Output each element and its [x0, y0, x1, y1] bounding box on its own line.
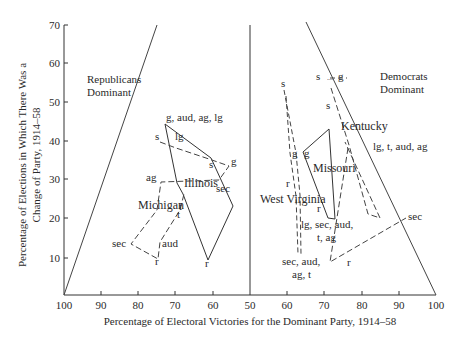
svg-text:Dominant: Dominant	[87, 86, 131, 98]
west-virginia-line-2	[286, 96, 298, 254]
svg-text:s: s	[326, 99, 330, 111]
svg-text:lg, t, aud, ag: lg, t, aud, ag	[373, 140, 428, 152]
svg-text:10: 10	[49, 252, 61, 264]
svg-text:g: g	[304, 147, 310, 159]
democrat-boundary	[306, 22, 436, 295]
svg-text:aud: aud	[162, 237, 178, 249]
svg-text:t: t	[177, 208, 180, 220]
svg-text:s: s	[209, 158, 213, 170]
svg-text:60: 60	[282, 299, 294, 311]
svg-text:40: 40	[49, 135, 61, 147]
democrats-label: Democrats	[380, 70, 428, 82]
svg-text:r: r	[155, 255, 159, 267]
region-labels: Republicans Dominant Democrats Dominant	[87, 70, 428, 98]
svg-text:s: s	[316, 70, 320, 82]
x-tick-labels: 100 90 80 70 60 50 60 70 80 90 100	[56, 299, 445, 311]
svg-text:s: s	[155, 130, 159, 142]
svg-text:50: 50	[245, 299, 257, 311]
svg-text:Missouri: Missouri	[313, 161, 356, 175]
svg-text:sec: sec	[112, 237, 126, 249]
svg-text:Percentage of Elections in Whi: Percentage of Elections in Which There W…	[16, 63, 28, 267]
svg-text:60: 60	[49, 57, 61, 69]
svg-text:50: 50	[49, 96, 61, 108]
svg-text:90: 90	[394, 299, 406, 311]
svg-text:100: 100	[428, 299, 445, 311]
x-axis-title: Percentage of Electoral Victories for th…	[104, 315, 397, 327]
svg-text:sec, aud,: sec, aud,	[282, 255, 320, 267]
svg-text:70: 70	[170, 299, 182, 311]
svg-text:70: 70	[319, 299, 331, 311]
svg-text:100: 100	[56, 299, 73, 311]
svg-text:r: r	[205, 257, 209, 269]
republicans-label: Republicans	[87, 73, 141, 85]
svg-text:lg, sec, aud,: lg, sec, aud,	[301, 218, 353, 230]
svg-text:t, ag: t, ag	[317, 231, 336, 243]
svg-text:...: ...	[327, 73, 333, 82]
svg-text:r: r	[347, 256, 351, 268]
svg-text:sec: sec	[408, 210, 422, 222]
svg-text:70: 70	[49, 19, 61, 31]
svg-text:s: s	[281, 77, 285, 89]
svg-text:r: r	[286, 177, 290, 189]
svg-text:sec: sec	[216, 182, 230, 194]
y-axis-title: Percentage of Elections in Which There W…	[16, 63, 42, 267]
svg-text:Change of Party, 1914–58: Change of Party, 1914–58	[30, 107, 42, 222]
left-point-labels: g, aud, ag, lg s lg s g ag Illinois t se…	[112, 111, 237, 269]
svg-text:90: 90	[96, 299, 108, 311]
svg-text:g, aud, ag, lg: g, aud, ag, lg	[166, 111, 223, 123]
svg-text:80: 80	[133, 299, 145, 311]
svg-text:20: 20	[49, 212, 61, 224]
svg-text:80: 80	[357, 299, 369, 311]
svg-text:ag: ag	[146, 171, 157, 183]
svg-text:Dominant: Dominant	[380, 83, 424, 95]
svg-text:Kentucky: Kentucky	[341, 119, 388, 133]
svg-text:g: g	[292, 147, 298, 159]
svg-text:g: g	[231, 155, 237, 167]
svg-text:lg: lg	[175, 130, 184, 142]
svg-text:r: r	[317, 202, 321, 214]
svg-text:Illinois: Illinois	[184, 176, 218, 190]
svg-text:30: 30	[49, 173, 61, 185]
axes	[64, 25, 436, 295]
chart: 10 20 30 40 50 60 70 100 90 80 70 60 50 …	[0, 0, 465, 339]
y-tick-labels: 10 20 30 40 50 60 70	[49, 19, 61, 264]
svg-text:60: 60	[208, 299, 220, 311]
svg-text:ag, t: ag, t	[292, 268, 311, 280]
republican-boundary	[64, 25, 157, 295]
svg-text:g: g	[338, 70, 344, 82]
kentucky-line-2	[331, 88, 380, 218]
